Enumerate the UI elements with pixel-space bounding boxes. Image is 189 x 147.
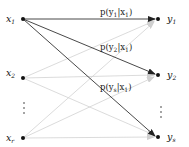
node-x1	[21, 17, 25, 21]
output-nodes	[156, 17, 160, 139]
edge-label-y1-x1: p(y1|x1)	[100, 7, 132, 18]
node-ys	[156, 135, 160, 139]
output-ellipsis	[160, 106, 162, 118]
input-nodes	[21, 17, 25, 140]
label-y1: y1	[166, 13, 176, 25]
label-x1: x1	[6, 13, 15, 25]
edge-xr-ys	[23, 137, 154, 138]
edge-x2-y1	[23, 21, 154, 78]
label-x2: x2	[6, 67, 15, 79]
label-xr: xr	[6, 132, 15, 144]
edge-label-ys-x1: p(ys|x1)	[100, 82, 131, 93]
faded-edges	[23, 21, 154, 138]
node-x2	[21, 76, 25, 80]
input-ellipsis	[23, 102, 25, 114]
node-y1	[156, 17, 160, 21]
label-ys: ys	[166, 131, 175, 143]
channel-diagram: p(y1|x1) p(y2|x1) p(ys|x1) x1 x2 xr y1 y…	[0, 0, 189, 147]
node-xr	[21, 136, 25, 140]
node-y2	[156, 73, 160, 77]
label-y2: y2	[166, 69, 176, 81]
edge-xr-y1	[23, 22, 154, 138]
edge-label-y2-x1: p(y2|x1)	[100, 42, 132, 53]
edge-x1-y2	[23, 19, 155, 74]
